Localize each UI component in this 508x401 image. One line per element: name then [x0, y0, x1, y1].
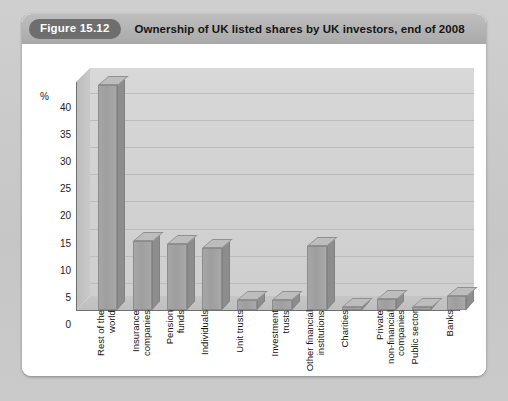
x-axis-label: Other financial institutions [305, 310, 331, 371]
figure-title: Ownership of UK listed shares by UK inve… [135, 23, 465, 35]
y-axis-tick-label: 20 [60, 210, 71, 221]
y-axis-unit-label: % [40, 91, 49, 102]
x-axis-label: Insurance companies [131, 310, 157, 356]
gridline [90, 120, 474, 121]
bar-side-face [222, 239, 230, 310]
x-axis-label: Investment trusts [270, 310, 296, 356]
y-axis-tick-label: 15 [60, 237, 71, 248]
bar [272, 300, 292, 310]
bar-front-face [377, 299, 397, 310]
bar [237, 300, 257, 310]
bar-front-face [447, 296, 467, 310]
bar-front-face [98, 85, 118, 310]
gridline [90, 147, 474, 148]
x-axis-label: Pension funds [165, 310, 191, 344]
bar [133, 241, 153, 310]
y-axis-tick-label: 25 [60, 183, 71, 194]
y-axis-tick-label: 5 [65, 291, 71, 302]
bar-front-face [307, 246, 327, 310]
bar-side-face [187, 235, 195, 310]
bar-front-face [133, 241, 153, 310]
chart-area: % 0510152025303540 Rest of the worldInsu… [22, 44, 486, 376]
y-axis-tick-label: 10 [60, 264, 71, 275]
y-axis-tick-label: 40 [60, 101, 71, 112]
figure-number-badge: Figure 15.12 [29, 19, 121, 39]
gridline [90, 229, 474, 230]
bar-front-face [202, 248, 222, 310]
gridline [90, 201, 474, 202]
y-axis-tick-label: 35 [60, 129, 71, 140]
bar-side-face [117, 76, 125, 310]
plot-region: 0510152025303540 [76, 68, 474, 306]
bar [167, 244, 187, 310]
bar [447, 296, 467, 310]
figure-header: Figure 15.12 Ownership of UK listed shar… [22, 14, 486, 44]
bar-side-face [327, 238, 335, 310]
x-axis-label: Rest of the world [96, 310, 122, 356]
bar [202, 248, 222, 310]
y-axis-tick-label: 0 [65, 319, 71, 330]
x-axis-label: Unit trusts [235, 310, 261, 353]
x-axis-label: Private non-financial companies [375, 310, 401, 364]
x-axis-label: Charities [340, 310, 366, 348]
bar-front-face [167, 244, 187, 310]
y-axis-tick-label: 30 [60, 156, 71, 167]
y-axis-line [76, 82, 77, 310]
plot-side-wall [76, 68, 90, 310]
page-background: Figure 15.12 Ownership of UK listed shar… [0, 0, 508, 401]
x-axis-labels: Rest of the worldInsurance companiesPens… [76, 310, 474, 376]
bar-front-face [272, 300, 292, 310]
bar-front-face [237, 300, 257, 310]
gridline [90, 93, 474, 94]
bar [377, 299, 397, 310]
x-axis-label: Public sector [410, 310, 436, 364]
figure-card: Figure 15.12 Ownership of UK listed shar… [22, 14, 486, 376]
x-axis-label: Individuals [200, 310, 226, 355]
gridline [90, 174, 474, 175]
bar [98, 85, 118, 310]
x-axis-label: Banks [445, 310, 471, 336]
bar [307, 246, 327, 310]
bar-side-face [152, 232, 160, 310]
